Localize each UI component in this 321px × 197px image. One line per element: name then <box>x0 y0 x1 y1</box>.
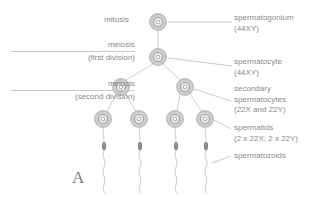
callout-spermatozoids-line1: spermatozoids <box>234 151 286 162</box>
stage-label-meiosis-first-line1: meiosis <box>108 40 135 49</box>
leader-secondary-spermatocytes <box>194 89 231 101</box>
cell-spermatid-1 <box>95 111 112 128</box>
callout-spermatocyte: spermatocyte (44XY) <box>234 57 282 78</box>
stage-label-meiosis-first-rule <box>11 51 135 52</box>
spermatozoid-4 <box>204 142 208 193</box>
connector-meiosis2-d <box>190 94 202 112</box>
connector-meiosis1-right <box>163 64 180 80</box>
callout-spermatocyte-line2: (44XY) <box>234 68 282 79</box>
callout-secondary-spermatocytes-line2: spermatocytes <box>234 95 286 106</box>
stage-label-meiosis-first: meiosis (first division) <box>11 40 135 63</box>
stage-label-meiosis-second-rule <box>11 90 135 91</box>
callout-leader-lines <box>168 22 232 163</box>
connector-meiosis1-left <box>126 64 153 80</box>
callout-spermatocyte-line1: spermatocyte <box>234 57 282 68</box>
callout-spermatids-line2: (2 x 22X; 2 x 22Y) <box>234 134 298 145</box>
spermatozoid-group <box>102 142 208 193</box>
stage-label-meiosis-second-line1: meiosis <box>108 79 135 88</box>
connector-meiosis2-c <box>177 94 180 112</box>
cell-secondary-spermatocyte-right <box>177 79 194 96</box>
spermatozoid-3 <box>174 142 178 193</box>
leader-spermatozoids <box>212 156 231 163</box>
cell-spermatocyte <box>150 49 167 66</box>
spermatozoid-2 <box>138 142 142 193</box>
leader-spermatocyte <box>168 58 232 66</box>
spermatozoid-1 <box>102 142 106 193</box>
spermatogenesis-diagram: mitosis meiosis (first division) meiosis… <box>0 0 321 197</box>
callout-spermatogonium-line2: (44XY) <box>234 24 294 35</box>
callout-spermatozoids: spermatozoids <box>234 151 286 162</box>
connector-spermiogenesis-4 <box>205 128 206 141</box>
callout-secondary-spermatocytes-line1: secondary <box>234 84 286 95</box>
connector-spermiogenesis-1 <box>103 128 104 141</box>
stage-label-mitosis: mitosis <box>11 15 129 25</box>
leader-spermatids <box>214 120 231 129</box>
cell-spermatid-4 <box>197 111 214 128</box>
connector-spermiogenesis-2 <box>139 128 140 141</box>
panel-letter: A <box>72 168 84 188</box>
callout-spermatogonium: spermatogonium (44XY) <box>234 13 294 34</box>
stage-label-mitosis-line1: mitosis <box>104 15 129 24</box>
stage-label-meiosis-second: meiosis (second division) <box>11 79 135 102</box>
callout-spermatogonium-line1: spermatogonium <box>234 13 294 24</box>
connector-spermiogenesis-3 <box>175 128 176 141</box>
cell-spermatid-3 <box>167 111 184 128</box>
stage-label-meiosis-second-line2: (second division) <box>75 92 135 101</box>
cell-spermatid-2 <box>131 111 148 128</box>
cell-spermatogonium <box>150 14 167 31</box>
callout-secondary-spermatocytes: secondary spermatocytes (22X and 22Y) <box>234 84 286 116</box>
callout-secondary-spermatocytes-line3: (22X and 22Y) <box>234 105 286 116</box>
stage-label-meiosis-first-line2: (first division) <box>88 53 135 62</box>
callout-spermatids: spermatids (2 x 22X; 2 x 22Y) <box>234 123 298 144</box>
callout-spermatids-line1: spermatids <box>234 123 298 134</box>
cell-group <box>95 14 214 128</box>
